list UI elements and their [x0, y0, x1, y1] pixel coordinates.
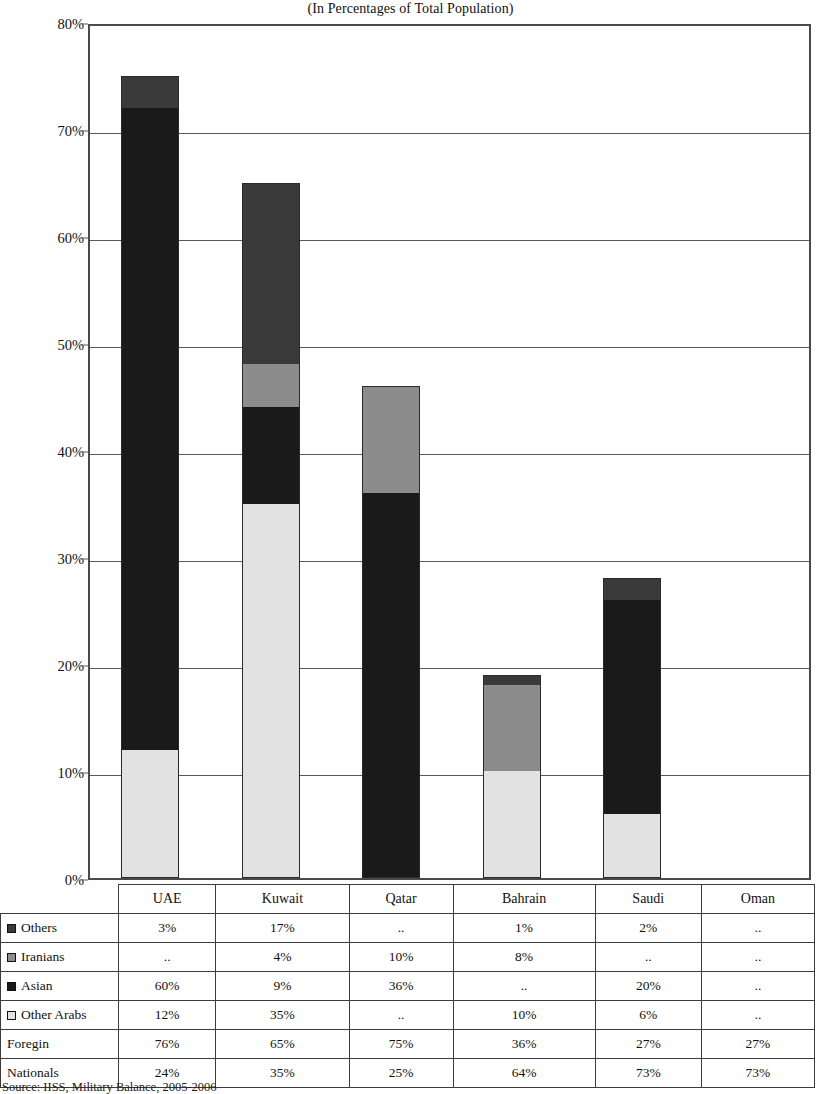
y-axis-tick-label: 80% [24, 16, 84, 33]
cell-others-qatar: .. [349, 914, 453, 943]
cell-other-arabs-uae: 12% [119, 1001, 216, 1030]
cell-foregin-saudi: 27% [595, 1030, 701, 1059]
y-axis-tick-mark [81, 666, 88, 667]
cell-others-oman: .. [701, 914, 814, 943]
cell-foregin-oman: 27% [701, 1030, 814, 1059]
y-axis-tick-label: 50% [24, 337, 84, 354]
chart-container: 0%10%20%30%40%50%60%70%80% [0, 0, 821, 884]
bar-segment-others [603, 578, 661, 599]
cell-asian-uae: 60% [119, 972, 216, 1001]
cell-other-arabs-saudi: 6% [595, 1001, 701, 1030]
y-axis-tick-label: 10% [24, 765, 84, 782]
source-note: Source: IISS, Military Balance, 2005-200… [2, 1080, 217, 1094]
table-row: Foregin76%65%75%36%27%27% [1, 1030, 815, 1059]
bar-column-oman [693, 26, 814, 878]
cell-iranians-saudi: .. [595, 943, 701, 972]
cell-iranians-qatar: 10% [349, 943, 453, 972]
bar-column-qatar [331, 26, 452, 878]
y-axis-tick-mark [81, 452, 88, 453]
table-body: Others3%17%..1%2%..Iranians..4%10%8%....… [1, 914, 815, 1088]
legend-swatch-other-arabs-icon [7, 1011, 16, 1020]
bar-segment-others [121, 76, 179, 108]
cell-foregin-qatar: 75% [349, 1030, 453, 1059]
bar-segment-other-arabs [121, 750, 179, 878]
cell-other-arabs-qatar: .. [349, 1001, 453, 1030]
cell-asian-kuwait: 9% [216, 972, 349, 1001]
column-header-bahrain: Bahrain [453, 885, 595, 914]
cell-asian-qatar: 36% [349, 972, 453, 1001]
plot-area [88, 24, 811, 880]
data-table: UAEKuwaitQatarBahrainSaudiOman Others3%1… [0, 884, 815, 1088]
cell-other-arabs-bahrain: 10% [453, 1001, 595, 1030]
cell-asian-oman: .. [701, 972, 814, 1001]
legend-swatch-asian-icon [7, 982, 16, 991]
y-axis-tick-label: 20% [24, 658, 84, 675]
bar-segment-asian [242, 407, 300, 503]
bar-segment-asian [121, 108, 179, 750]
cell-foregin-uae: 76% [119, 1030, 216, 1059]
row-label: Iranians [21, 949, 64, 964]
row-label: Nationals [7, 1065, 59, 1080]
cell-nationals-qatar: 25% [349, 1059, 453, 1088]
row-header-other-arabs: Other Arabs [1, 1001, 119, 1030]
table-row: Iranians..4%10%8%.... [1, 943, 815, 972]
row-header-asian: Asian [1, 972, 119, 1001]
row-header-others: Others [1, 914, 119, 943]
y-axis-tick-mark [81, 238, 88, 239]
cell-asian-bahrain: .. [453, 972, 595, 1001]
table-row: Others3%17%..1%2%.. [1, 914, 815, 943]
table-row: Asian60%9%36%..20%.. [1, 972, 815, 1001]
row-header-iranians: Iranians [1, 943, 119, 972]
table-row: Other Arabs12%35%..10%6%.. [1, 1001, 815, 1030]
bar-column-uae [90, 26, 211, 878]
cell-others-uae: 3% [119, 914, 216, 943]
bar-segment-iranians [362, 386, 420, 493]
cell-other-arabs-oman: .. [701, 1001, 814, 1030]
column-header-kuwait: Kuwait [216, 885, 349, 914]
y-axis-tick-mark [81, 345, 88, 346]
bar-segment-iranians [242, 364, 300, 407]
bar-segment-asian [603, 600, 661, 814]
y-axis-tick-mark [81, 773, 88, 774]
bar-segment-iranians [483, 685, 541, 771]
cell-foregin-kuwait: 65% [216, 1030, 349, 1059]
cell-nationals-oman: 73% [701, 1059, 814, 1088]
bar-segment-other-arabs [603, 814, 661, 878]
row-header-foregin: Foregin [1, 1030, 119, 1059]
cell-iranians-uae: .. [119, 943, 216, 972]
cell-others-kuwait: 17% [216, 914, 349, 943]
y-axis-tick-label: 60% [24, 230, 84, 247]
column-header-oman: Oman [701, 885, 814, 914]
cell-nationals-kuwait: 35% [216, 1059, 349, 1088]
cell-foregin-bahrain: 36% [453, 1030, 595, 1059]
cell-nationals-bahrain: 64% [453, 1059, 595, 1088]
column-header-qatar: Qatar [349, 885, 453, 914]
y-axis-tick-label: 40% [24, 444, 84, 461]
cell-others-saudi: 2% [595, 914, 701, 943]
bar-segment-asian [362, 493, 420, 878]
cell-other-arabs-kuwait: 35% [216, 1001, 349, 1030]
y-axis-tick-mark [81, 559, 88, 560]
column-header-uae: UAE [119, 885, 216, 914]
cell-asian-saudi: 20% [595, 972, 701, 1001]
cell-nationals-saudi: 73% [595, 1059, 701, 1088]
cell-iranians-oman: .. [701, 943, 814, 972]
bar-column-kuwait [211, 26, 332, 878]
bar-column-bahrain [452, 26, 573, 878]
cell-iranians-bahrain: 8% [453, 943, 595, 972]
bar-segment-other-arabs [242, 504, 300, 879]
y-axis-tick-label: 70% [24, 123, 84, 140]
y-axis-tick-mark [81, 131, 88, 132]
legend-swatch-iranians-icon [7, 953, 16, 962]
column-header-saudi: Saudi [595, 885, 701, 914]
bar-segment-other-arabs [483, 771, 541, 878]
bar-column-saudi [572, 26, 693, 878]
cell-others-bahrain: 1% [453, 914, 595, 943]
row-label: Asian [21, 978, 53, 993]
row-label: Others [21, 920, 57, 935]
legend-swatch-others-icon [7, 924, 16, 933]
table-header: UAEKuwaitQatarBahrainSaudiOman [1, 885, 815, 914]
bar-segment-others [242, 183, 300, 365]
table-corner-cell [1, 885, 119, 914]
y-axis-tick-mark [81, 880, 88, 881]
